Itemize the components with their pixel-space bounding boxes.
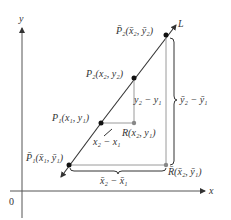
y-axis-label: y	[19, 14, 23, 24]
pointer-run	[104, 129, 112, 136]
x-axis-label: x	[209, 186, 213, 196]
line-L-lower	[61, 119, 104, 177]
similar-triangles-slope-diagram: y x 0 L P̄₂(x̄₂, ȳ₂) P₂(x₂, y₂) P₁(x₁, y…	[0, 0, 231, 220]
line-L-label: L	[178, 19, 184, 29]
point-R	[132, 121, 136, 125]
label-Rbar: R̄(x̄₂, ȳ₁)	[168, 167, 202, 177]
label-run: x₂ − x₁	[93, 137, 121, 147]
label-rise: y₂ − y₁	[134, 95, 162, 105]
label-P2: P₂(x₂, y₂)	[86, 69, 123, 79]
label-P1: P₁(x₁, y₁)	[52, 113, 89, 123]
label-P2bar: P̄₂(x̄₂, ȳ₂)	[116, 26, 153, 36]
point-P1bar	[67, 163, 72, 168]
label-rise-bar: ȳ₂ − ȳ₁	[180, 95, 208, 105]
label-R: R(x₂, y₁)	[122, 128, 156, 138]
brace-run-bar	[70, 168, 166, 174]
origin-label: 0	[9, 197, 14, 207]
point-P1	[99, 121, 104, 126]
point-P2bar	[164, 33, 169, 38]
point-P2	[132, 76, 137, 81]
brace-rise-bar	[170, 38, 177, 165]
label-P1bar: P̄₁(x̄₁, ȳ₁)	[26, 153, 63, 163]
label-run-bar: x̄₂ − x̄₁	[100, 176, 128, 186]
